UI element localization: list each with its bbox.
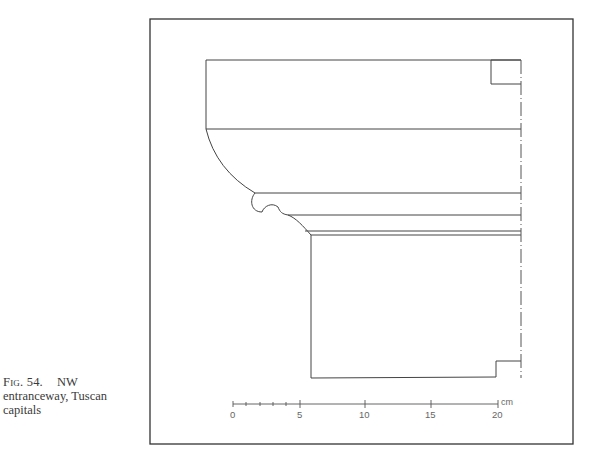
- capital-profile-drawing: 0 5 10 15 20 cm: [0, 0, 597, 465]
- astragal-molding: [252, 193, 521, 235]
- scale-labels: 0 5 10 15 20 cm: [230, 397, 513, 420]
- scale-tick-20: 20: [492, 409, 503, 420]
- scale-tick-10: 10: [359, 409, 370, 420]
- abacus-notch: [491, 60, 521, 84]
- scale-bar: [233, 400, 498, 408]
- scale-tick-5: 5: [297, 409, 302, 420]
- echinus: [206, 129, 521, 193]
- abacus: [206, 60, 521, 129]
- scale-tick-0: 0: [230, 409, 235, 420]
- shaft: [311, 235, 521, 378]
- scale-tick-15: 15: [425, 409, 436, 420]
- scale-unit: cm: [501, 397, 513, 407]
